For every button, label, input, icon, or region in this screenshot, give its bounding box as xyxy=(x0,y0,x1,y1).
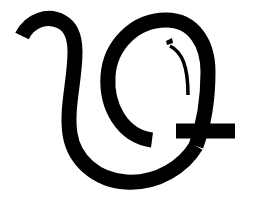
glyph-artwork xyxy=(0,0,253,203)
glyph-canvas xyxy=(0,0,253,203)
